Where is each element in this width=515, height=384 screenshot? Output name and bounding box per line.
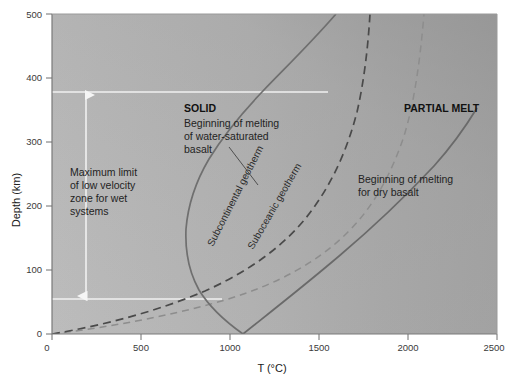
x-axis-title: T (°C) <box>257 362 286 374</box>
y-tick-label-100: 100 <box>26 264 42 275</box>
y-tick-label-400: 400 <box>26 72 42 83</box>
x-tick-label-2500: 2500 <box>483 342 504 353</box>
solid-region-label: SOLID <box>184 102 217 114</box>
lvz-annotation-line3: zone for wet <box>70 192 127 204</box>
water-saturated-annotation-line3: basalt <box>184 143 212 155</box>
phase-diagram-figure: Subcontinental geotherm Suboceanic geoth… <box>0 0 515 384</box>
x-tick-label-1500: 1500 <box>308 342 329 353</box>
dry-basalt-annotation-line2: for dry basalt <box>358 186 419 198</box>
lvz-annotation-line1: Maximum limit <box>70 166 137 178</box>
water-saturated-annotation-line1: Beginning of melting <box>184 117 279 129</box>
lvz-annotation-line2: of low velocity <box>70 179 136 191</box>
y-tick-label-200: 200 <box>26 200 42 211</box>
y-tick-label-0: 0 <box>37 328 42 339</box>
y-tick-label-500: 500 <box>26 9 42 20</box>
water-saturated-annotation-line2: of water-saturated <box>184 130 269 142</box>
dry-basalt-annotation-line1: Beginning of melting <box>358 173 453 185</box>
y-axis-title: Depth (km) <box>10 173 22 227</box>
partial-melt-region-label: PARTIAL MELT <box>404 102 480 114</box>
x-tick-label-2000: 2000 <box>397 342 418 353</box>
x-tick-label-500: 500 <box>133 342 149 353</box>
y-tick-label-300: 300 <box>26 136 42 147</box>
lvz-annotation-line4: systems <box>70 205 109 217</box>
x-tick-label-0: 0 <box>44 342 49 353</box>
x-tick-label-1000: 1000 <box>219 342 240 353</box>
